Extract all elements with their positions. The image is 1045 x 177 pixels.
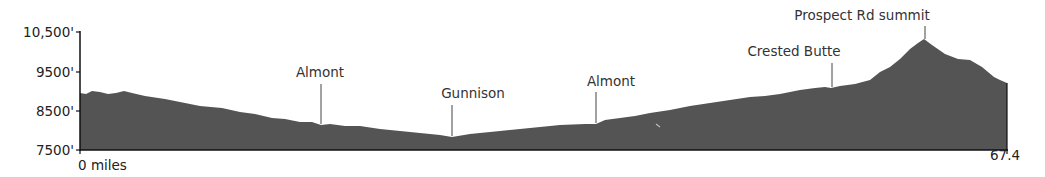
elevation-profile-chart: 10,500' 9500' 8500' 7500' 0 miles 67.4 A… <box>0 0 1045 177</box>
x-label-start: 0 miles <box>78 157 127 173</box>
summit-label: Prospect Rd summit <box>794 7 930 23</box>
y-label-7500: 7500' <box>36 142 74 158</box>
y-label-8500: 8500' <box>36 103 74 119</box>
elevation-area <box>80 39 1007 150</box>
y-label-10500: 10,500' <box>23 24 74 40</box>
crested-butte-label: Crested Butte <box>747 43 840 59</box>
almont-2-label: Almont <box>587 73 635 89</box>
y-label-9500: 9500' <box>36 64 74 80</box>
gunnison-label: Gunnison <box>441 85 505 101</box>
x-label-end: 67.4 <box>990 147 1020 163</box>
almont-1-label: Almont <box>296 64 344 80</box>
